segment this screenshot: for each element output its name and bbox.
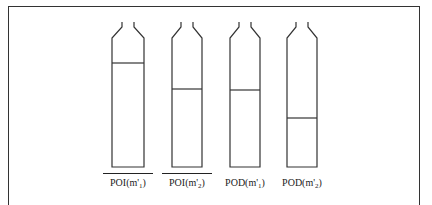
bottle-label-poi-m2: POI(m'2) xyxy=(162,173,212,190)
bottle-label-pod-m2: POD(m'2) xyxy=(277,177,327,190)
bottle-label-poi-m1: POI(m'1) xyxy=(103,173,153,190)
bottle-pod-m2 xyxy=(287,22,317,167)
bottle-label-pod-m1: POD(m'1) xyxy=(220,177,270,190)
bottle-poi-m1 xyxy=(112,22,144,167)
bottles-diagram xyxy=(0,0,432,205)
bottle-poi-m2 xyxy=(172,22,202,167)
bottle-pod-m1 xyxy=(230,22,260,167)
